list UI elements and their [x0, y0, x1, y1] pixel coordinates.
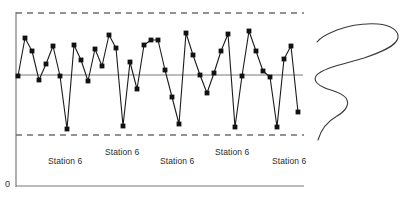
data-point-marker	[219, 49, 224, 54]
data-point-marker	[205, 91, 210, 96]
data-point-marker	[240, 74, 245, 79]
data-point-marker	[93, 47, 98, 52]
data-point-marker	[177, 122, 182, 127]
data-point-marker	[51, 44, 56, 49]
station-label: Station 6	[160, 156, 194, 166]
bimodal-density-curve	[315, 24, 398, 140]
data-point-marker	[191, 53, 196, 58]
data-point-marker	[86, 79, 91, 84]
data-point-marker	[163, 68, 168, 73]
data-point-marker	[58, 74, 63, 79]
data-point-marker	[296, 110, 301, 115]
data-series-line	[18, 31, 298, 129]
data-point-marker	[233, 125, 238, 130]
data-point-marker	[114, 46, 119, 51]
data-point-markers	[16, 29, 301, 132]
data-point-marker	[156, 38, 161, 43]
data-point-marker	[184, 31, 189, 36]
data-point-marker	[149, 38, 154, 43]
data-point-marker	[79, 58, 84, 63]
data-point-marker	[128, 60, 133, 65]
chart-canvas	[0, 0, 408, 216]
data-point-marker	[212, 71, 217, 76]
station-label: Station 6	[48, 156, 82, 166]
data-point-marker	[72, 43, 77, 48]
station-label: Station 6	[272, 156, 306, 166]
data-point-marker	[44, 62, 49, 67]
data-point-marker	[23, 36, 28, 41]
control-chart-figure: 0 Station 6Station 6Station 6Station 6St…	[0, 0, 408, 216]
origin-label: 0	[5, 179, 10, 189]
data-point-marker	[226, 32, 231, 37]
data-point-marker	[254, 49, 259, 54]
data-point-marker	[170, 95, 175, 100]
data-point-marker	[16, 74, 21, 79]
data-point-marker	[142, 43, 147, 48]
data-point-marker	[268, 75, 273, 80]
data-point-marker	[37, 78, 42, 83]
data-point-marker	[135, 87, 140, 92]
station-label: Station 6	[105, 147, 139, 157]
data-point-marker	[282, 57, 287, 62]
data-point-marker	[30, 49, 35, 54]
data-point-marker	[107, 33, 112, 38]
data-point-marker	[261, 69, 266, 74]
station-label: Station 6	[215, 147, 249, 157]
data-point-marker	[275, 125, 280, 130]
data-point-marker	[100, 64, 105, 69]
data-point-marker	[198, 73, 203, 78]
data-point-marker	[289, 44, 294, 49]
data-point-marker	[247, 29, 252, 34]
data-point-marker	[121, 124, 126, 129]
data-point-marker	[65, 127, 70, 132]
